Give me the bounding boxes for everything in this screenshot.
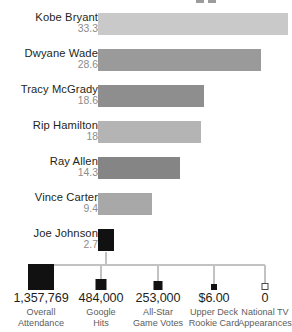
bar-category-label: Joe Johnson — [4, 228, 98, 239]
legend-value-label: 0 — [229, 291, 292, 305]
bar-rect — [98, 13, 288, 35]
bar-category-label: Tracy McGrady — [4, 84, 98, 95]
legend-description-line1: Google — [70, 307, 132, 318]
bar-category-label: Rip Hamilton — [4, 120, 98, 131]
bar-chart: Kobe Bryant33.3Dwyane Wade28.6Tracy McGr… — [0, 0, 292, 332]
legend-item: 484,000GoogleHits — [70, 262, 132, 328]
legend-description-line2: Hits — [70, 318, 132, 329]
bar-label-group: Joe Johnson2.7 — [4, 228, 98, 251]
bar-rect — [98, 157, 180, 179]
legend-value-label: 484,000 — [70, 291, 132, 305]
bar-value-label: 18.6 — [4, 96, 98, 107]
bar-label-group: Dwyane Wade28.6 — [4, 48, 98, 71]
clipped-mark-right — [208, 0, 216, 3]
bar-row: Joe Johnson2.7 — [0, 228, 292, 260]
bar-category-label: Dwyane Wade — [4, 48, 98, 59]
clipped-top-artifact — [196, 0, 218, 3]
legend-swatch-wrap — [70, 262, 132, 290]
bar-value-label: 2.7 — [4, 240, 98, 251]
bar-label-group: Ray Allen14.3 — [4, 156, 98, 179]
bar-row: Rip Hamilton18 — [0, 120, 292, 152]
bar-category-label: Ray Allen — [4, 156, 98, 167]
bar-row: Kobe Bryant33.3 — [0, 12, 292, 44]
bar-value-label: 28.6 — [4, 60, 98, 71]
bar-value-label: 14.3 — [4, 168, 98, 179]
bar-value-label: 18 — [4, 132, 98, 143]
bar-rect — [98, 49, 261, 71]
legend-swatch-square — [154, 281, 163, 290]
legend-swatch-square — [28, 264, 54, 290]
legend-swatch-square — [96, 279, 107, 290]
bar-rect — [98, 229, 114, 251]
legend-item: 0National TVAppearances — [229, 262, 292, 328]
bar-category-label: Vince Carter — [4, 192, 98, 203]
legend: 1,357,769OverallAttendance484,000GoogleH… — [0, 262, 292, 332]
bar-label-group: Kobe Bryant33.3 — [4, 12, 98, 35]
bar-label-group: Vince Carter9.4 — [4, 192, 98, 215]
legend-description-line2: Appearances — [229, 318, 292, 329]
bar-row: Vince Carter9.4 — [0, 192, 292, 224]
legend-swatch-square — [262, 283, 269, 290]
bar-rect — [98, 193, 152, 215]
bar-value-label: 33.3 — [4, 24, 98, 35]
bar-rect — [98, 85, 204, 107]
bar-rect — [98, 121, 201, 143]
bar-value-label: 9.4 — [4, 204, 98, 215]
bar-row: Tracy McGrady18.6 — [0, 84, 292, 116]
legend-swatch-square — [211, 284, 217, 290]
bar-row: Ray Allen14.3 — [0, 156, 292, 188]
legend-description-line1: National TV — [229, 307, 292, 318]
clipped-mark-left — [196, 0, 204, 3]
bar-row: Dwyane Wade28.6 — [0, 48, 292, 80]
legend-swatch-wrap — [229, 262, 292, 290]
bar-label-group: Tracy McGrady18.6 — [4, 84, 98, 107]
bar-category-label: Kobe Bryant — [4, 12, 98, 23]
bar-label-group: Rip Hamilton18 — [4, 120, 98, 143]
